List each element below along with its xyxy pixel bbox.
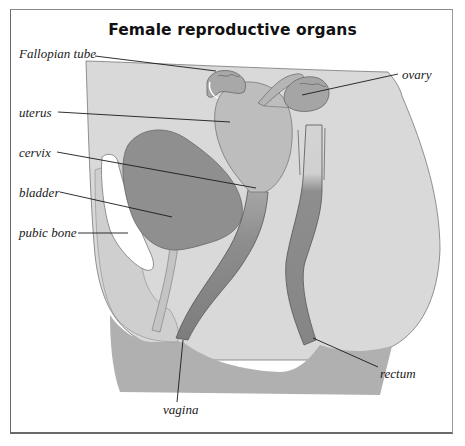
label-cervix: cervix [19,146,51,159]
label-fallopian-tube: Fallopian tube [19,47,96,60]
label-vagina: vagina [163,403,198,416]
label-uterus: uterus [19,106,52,119]
label-ovary: ovary [402,68,432,81]
label-rectum: rectum [380,367,416,380]
label-pubic-bone: pubic bone [19,226,76,239]
label-bladder: bladder [19,186,59,199]
